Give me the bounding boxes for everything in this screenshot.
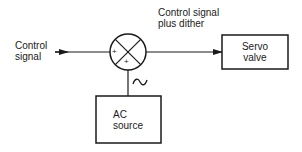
dither-block-diagram: Control signal Control signal plus dithe… — [0, 0, 302, 152]
diagram-lines — [0, 0, 302, 152]
ac-source-line1: AC — [113, 109, 143, 120]
ac-source-line2: source — [113, 120, 143, 131]
input-label-line2: signal — [15, 51, 47, 62]
input-label: Control signal — [15, 40, 47, 62]
servo-valve-line2: valve — [222, 52, 288, 63]
ac-wave-icon — [133, 79, 147, 85]
plus-sign-bottom: + — [124, 58, 129, 66]
servo-valve-line1: Servo — [222, 41, 288, 52]
servo-valve-label: Servo valve — [222, 41, 288, 63]
output-label-line1: Control signal — [158, 7, 219, 18]
output-label: Control signal plus dither — [158, 7, 219, 29]
plus-sign-left: + — [112, 48, 117, 56]
output-label-line2: plus dither — [158, 18, 219, 29]
input-label-line1: Control — [15, 40, 47, 51]
ac-source-label: AC source — [113, 109, 143, 131]
